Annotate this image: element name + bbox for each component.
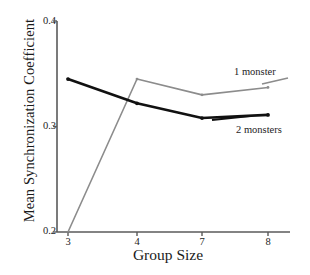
series-lines (68, 79, 268, 232)
axis-lines (57, 21, 290, 232)
data-point (266, 113, 270, 117)
data-point (201, 93, 204, 96)
annotation-leader-lines (212, 78, 288, 120)
plot-area (0, 0, 310, 275)
series-markers (66, 77, 270, 120)
series-line-0 (68, 79, 268, 232)
data-point (267, 86, 270, 89)
annotation-leader (262, 78, 288, 84)
data-point (66, 77, 70, 81)
series-line-1 (68, 79, 268, 118)
chart-figure: Mean Synchronization Coefficient 0.4 0.3… (0, 0, 310, 275)
data-point (135, 101, 139, 105)
data-point (200, 116, 204, 120)
data-point (136, 78, 139, 81)
